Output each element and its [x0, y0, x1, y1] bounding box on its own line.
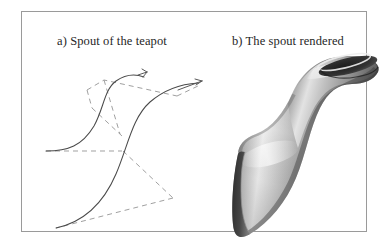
control-polygon-upper-crossbar [104, 80, 120, 134]
panel-caption-a: a) Spout of the teapot [57, 34, 167, 48]
spout-render-panel [214, 50, 385, 240]
figure-frame: a) Spout of the teapot b) The spout rend… [21, 11, 367, 232]
spout-surface [224, 50, 385, 240]
control-polygon-upper-left [87, 80, 177, 96]
panel-caption-b: b) The spout rendered [232, 34, 344, 48]
figure-root: a) Spout of the teapot b) The spout rend… [0, 0, 385, 244]
spout-profile-curve-upper [46, 75, 144, 151]
bezier-curve-group [46, 75, 198, 228]
control-polygon-lower-base [56, 198, 173, 228]
spout-rendered-image [214, 50, 385, 240]
control-polygon-lower-right [123, 151, 173, 198]
spout-profile-curve-lower [56, 83, 198, 228]
tangent-arrow-upper-right [178, 79, 202, 90]
control-polygon-group [46, 80, 198, 228]
spout-wireframe-diagram [46, 50, 214, 240]
tangent-arrow-group [138, 69, 202, 90]
control-polygon-upper-right-leg [177, 86, 198, 96]
spout-wireframe-panel [46, 50, 214, 240]
control-polygon-upper-left-leg [87, 90, 92, 108]
